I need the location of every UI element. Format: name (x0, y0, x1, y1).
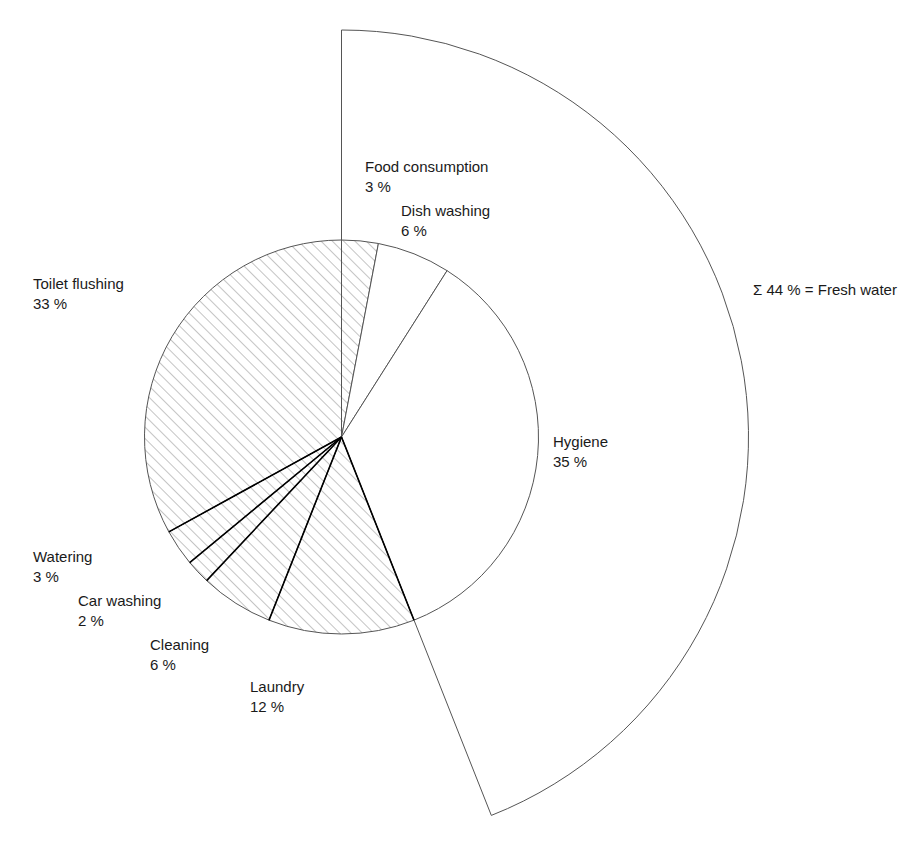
slice-label-value: 33 % (33, 295, 67, 312)
slice-label-name: Watering (33, 548, 92, 565)
slice-label-value: 2 % (78, 612, 104, 629)
slice-label-name: Food consumption (365, 158, 488, 175)
slice-label-name: Laundry (250, 678, 305, 695)
pie-chart-figure: Food consumption3 %Dish washing6 %Hygien… (0, 0, 916, 847)
slice-label-value: 3 % (33, 568, 59, 585)
slice-label-name: Cleaning (150, 636, 209, 653)
slice-label-value: 6 % (150, 656, 176, 673)
slice-label-name: Hygiene (553, 433, 608, 450)
fresh-water-sum-label: Σ 44 % = Fresh water (753, 281, 897, 298)
slice-label-name: Toilet flushing (33, 275, 124, 292)
sum-annotation-text: Σ 44 % = Fresh water (753, 281, 897, 298)
slice-label-value: 3 % (365, 178, 391, 195)
slice-label-value: 6 % (401, 222, 427, 239)
slice-label-value: 35 % (553, 453, 587, 470)
slice-label-name: Dish washing (401, 202, 490, 219)
fresh-water-bracket-leg-end (414, 620, 491, 815)
slice-label-name: Car washing (78, 592, 161, 609)
slice-label-value: 12 % (250, 698, 284, 715)
water-usage-pie-chart: Food consumption3 %Dish washing6 %Hygien… (0, 0, 916, 847)
